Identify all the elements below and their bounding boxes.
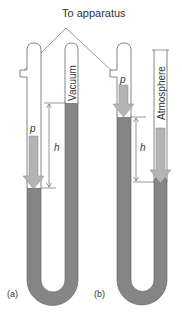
panel-b: Atmosphere p h (b) xyxy=(94,43,171,305)
panel-label-a: (a) xyxy=(7,289,18,299)
vacuum-label: Vacuum xyxy=(67,65,78,101)
panel-a: Vacuum p h (a) xyxy=(7,43,78,306)
atmosphere-label: Atmosphere xyxy=(156,66,167,120)
height-label-b: h xyxy=(140,142,146,153)
title-label: To apparatus xyxy=(62,7,126,19)
manometer-diagram: .tube { fill: #ffffff; stroke: #666; str… xyxy=(0,0,182,323)
atmosphere-arrow-b xyxy=(150,128,171,183)
panel-label-b: (b) xyxy=(94,289,105,299)
pressure-label-a: p xyxy=(29,123,36,134)
height-label-a: h xyxy=(54,142,60,153)
pressure-label-b: p xyxy=(119,74,126,85)
